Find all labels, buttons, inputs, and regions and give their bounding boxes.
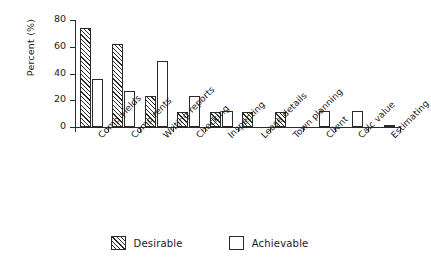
empty-square-icon	[229, 236, 244, 250]
y-axis-tick: 60	[70, 47, 75, 48]
y-axis-tick-label: 20	[54, 93, 66, 104]
bar-achievable-0	[92, 79, 103, 127]
legend-item-desirable: Desirable	[111, 236, 183, 250]
y-axis-title: Percent (%)	[25, 3, 36, 93]
chart-legend: Desirable Achievable	[0, 236, 419, 250]
legend-item-achievable: Achievable	[229, 236, 309, 250]
y-axis-tick: 80	[70, 20, 75, 21]
y-axis-tick: 20	[70, 100, 75, 101]
y-axis-tick-label: 60	[54, 40, 66, 51]
bar-achievable-8	[352, 111, 363, 127]
y-axis-line	[75, 20, 76, 128]
y-axis-tick-label: 0	[60, 120, 66, 131]
bar-desirable-0	[80, 28, 91, 127]
y-axis-tick-label: 80	[54, 13, 66, 24]
y-axis-tick: 40	[70, 74, 75, 75]
hatched-square-icon	[111, 236, 126, 250]
y-axis-tick-label: 40	[54, 67, 66, 78]
legend-label-achievable: Achievable	[252, 238, 309, 249]
legend-label-desirable: Desirable	[134, 238, 183, 249]
x-axis-tick	[75, 127, 76, 132]
